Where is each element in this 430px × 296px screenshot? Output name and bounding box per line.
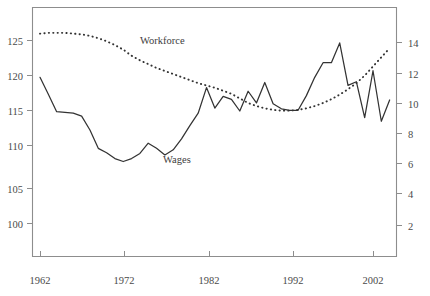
tick-label-x-1982: 1982 (199, 275, 220, 286)
series-group (40, 33, 390, 162)
left-axis-tick-labels: 125 120 115 110 105 100 (7, 36, 23, 230)
tick-label-right-2: 2 (408, 221, 413, 232)
tick-label-left-120: 120 (7, 71, 23, 82)
chart-figure: 125 120 115 110 105 100 14 12 10 8 6 4 2 (0, 0, 430, 296)
tick-label-right-14: 14 (408, 38, 419, 49)
series-annotations: Workforce Wages (140, 35, 191, 165)
plot-frame (32, 7, 397, 257)
tick-label-left-115: 115 (8, 106, 23, 117)
tick-label-right-6: 6 (408, 159, 413, 170)
tick-label-left-100: 100 (7, 219, 23, 230)
annotation-wages: Wages (163, 154, 191, 165)
x-axis-tick-labels: 1962 1972 1982 1992 2002 (30, 275, 384, 286)
tick-label-left-125: 125 (7, 36, 23, 47)
series-line-wages (40, 43, 390, 162)
chart-svg: 125 120 115 110 105 100 14 12 10 8 6 4 2 (0, 0, 430, 296)
tick-label-right-8: 8 (408, 129, 413, 140)
tick-label-x-1972: 1972 (114, 275, 135, 286)
tick-label-x-2002: 2002 (363, 275, 384, 286)
tick-label-right-10: 10 (408, 99, 419, 110)
tick-label-x-1962: 1962 (30, 275, 51, 286)
tick-label-left-105: 105 (7, 184, 23, 195)
right-axis-tick-labels: 14 12 10 8 6 4 2 (408, 38, 419, 232)
tick-label-x-1992: 1992 (283, 275, 304, 286)
tick-label-right-4: 4 (408, 189, 414, 200)
annotation-workforce: Workforce (140, 35, 185, 46)
tick-label-right-12: 12 (408, 69, 419, 80)
series-line-workforce (40, 33, 390, 111)
tick-label-left-110: 110 (8, 141, 23, 152)
